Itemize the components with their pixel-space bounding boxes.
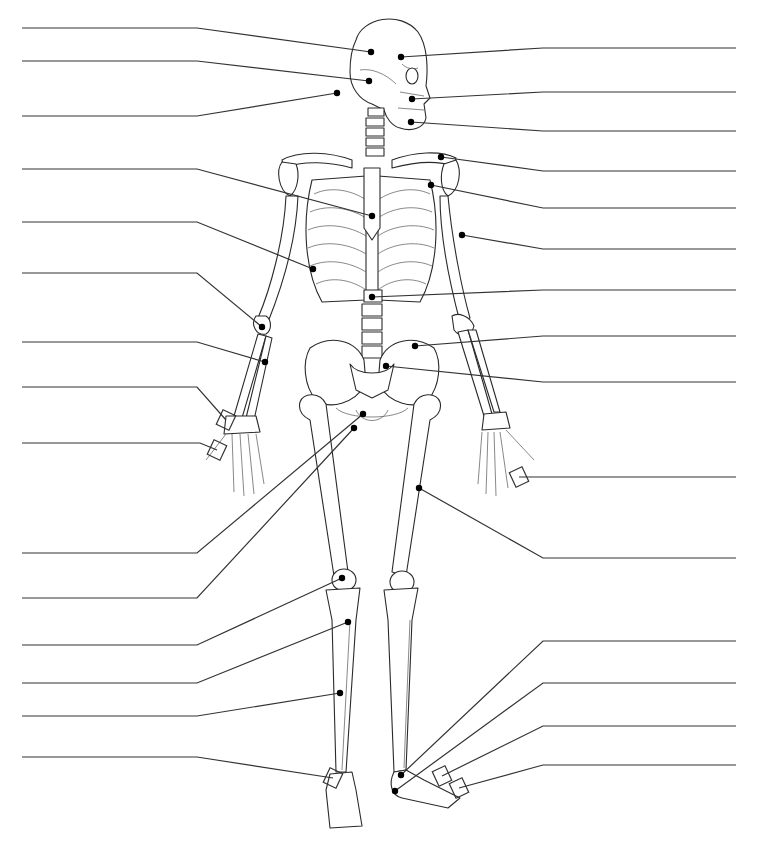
label-slot-l3[interactable] (22, 101, 197, 115)
pointer-dot-l3 (334, 90, 340, 96)
pointer-dot-l4 (369, 213, 375, 219)
leader-line-l6 (22, 273, 262, 327)
pointer-dot-r4 (438, 154, 444, 160)
label-slot-l11[interactable] (22, 583, 197, 597)
pointer-dot-r3 (408, 119, 414, 125)
leader-line-l8 (22, 387, 226, 420)
pointer-dot-l14 (337, 690, 343, 696)
right-leg (384, 395, 460, 808)
cervical-spine (366, 108, 384, 156)
leader-line-l11 (22, 428, 354, 598)
skeleton-diagram (0, 0, 764, 861)
label-slot-l10[interactable] (22, 538, 197, 552)
lumbar-spine (362, 290, 382, 358)
label-slot-l13[interactable] (22, 668, 197, 682)
leader-line-r15 (459, 765, 736, 788)
label-slot-l4[interactable] (22, 154, 197, 168)
pointer-dot-l11 (351, 425, 357, 431)
label-slot-l1[interactable] (22, 13, 197, 27)
pointer-dot-l7 (262, 359, 268, 365)
pointer-dot-l10 (360, 411, 366, 417)
label-slot-l15[interactable] (22, 742, 197, 756)
leader-line-r1 (401, 48, 736, 57)
right-arm (440, 196, 534, 496)
pointer-dot-r6 (459, 232, 465, 238)
label-slot-r8[interactable] (543, 321, 736, 335)
leader-line-r2 (412, 92, 736, 99)
label-slot-r6[interactable] (543, 234, 736, 248)
label-slot-r7[interactable] (543, 275, 736, 289)
pointer-dot-l12 (339, 575, 345, 581)
label-slot-l5[interactable] (22, 207, 197, 221)
pointer-dot-r7 (369, 294, 375, 300)
label-slot-l12[interactable] (22, 630, 197, 644)
label-slot-r3[interactable] (543, 116, 736, 130)
label-slot-r15[interactable] (543, 750, 736, 764)
label-slot-l14[interactable] (22, 701, 197, 715)
label-slot-r13[interactable] (543, 668, 736, 682)
leader-line-r7 (372, 290, 736, 297)
rib-cage (306, 168, 436, 302)
label-slot-r1[interactable] (543, 33, 736, 47)
pointer-dot-l6 (259, 324, 265, 330)
pointer-dot-l1 (368, 49, 374, 55)
label-slot-r11[interactable] (543, 543, 736, 557)
leader-line-l7 (22, 342, 265, 362)
leader-line-r13 (395, 683, 736, 791)
label-slot-l9[interactable] (22, 428, 200, 442)
pointer-dot-r13 (392, 788, 398, 794)
pointer-dot-r8 (412, 343, 418, 349)
left-arm (206, 196, 298, 496)
pointer-dot-r9 (383, 363, 389, 369)
label-slot-r10[interactable] (543, 462, 736, 476)
pointer-dot-r11 (416, 485, 422, 491)
leader-line-l15 (22, 757, 333, 778)
label-slot-l7[interactable] (22, 327, 197, 341)
label-slot-l2[interactable] (22, 46, 197, 60)
leader-line-l9 (22, 443, 217, 450)
label-slot-r9[interactable] (543, 367, 736, 381)
sternum (364, 168, 380, 240)
leader-line-l2 (22, 61, 369, 81)
pointer-dot-r1 (398, 54, 404, 60)
pointer-dot-l5 (310, 266, 316, 272)
label-slot-r5[interactable] (543, 193, 736, 207)
pointer-dot-r2 (409, 96, 415, 102)
pointer-dot-r12 (398, 772, 404, 778)
label-slot-l8[interactable] (22, 372, 197, 386)
label-slot-r2[interactable] (543, 77, 736, 91)
pointer-dot-l2 (366, 78, 372, 84)
pointer-dot-r5 (428, 182, 434, 188)
label-slot-r14[interactable] (543, 711, 736, 725)
label-slot-r4[interactable] (543, 156, 736, 170)
label-slot-l6[interactable] (22, 258, 197, 272)
label-slot-r12[interactable] (543, 626, 736, 640)
skull (350, 19, 430, 130)
pointer-dot-l13 (345, 619, 351, 625)
